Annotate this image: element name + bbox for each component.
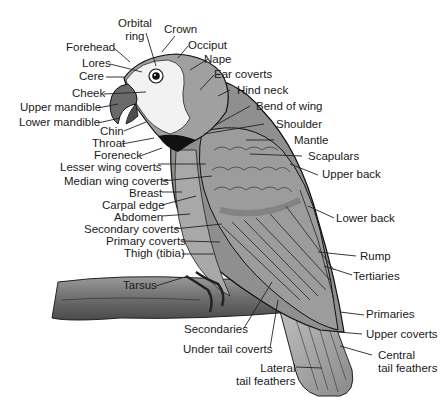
label-secondaries: Secondaries [184,323,248,336]
label-bend-of-wing: Bend of wing [256,100,323,113]
label-cheek: Cheek [72,87,105,100]
label-lateral-tail-feathers: Lateral tail feathers [236,362,295,388]
label-crown: Crown [164,23,197,36]
label-rump: Rump [360,250,391,263]
label-primaries: Primaries [366,308,415,321]
label-lower-back: Lower back [336,212,395,225]
label-orbital-ring: Orbital ring [118,17,152,43]
label-hind-neck: Hind neck [237,84,288,97]
label-ear-coverts: Ear coverts [214,68,272,81]
label-nape: Nape [204,53,232,66]
label-scapulars: Scapulars [308,150,359,163]
label-occiput: Occiput [188,39,227,52]
label-under-tail-coverts: Under tail coverts [183,343,272,356]
label-lores: Lores [82,57,111,70]
label-upper-coverts: Upper coverts [366,328,438,341]
label-shoulder: Shoulder [276,118,322,131]
label-central-tail-feathers: Central tail feathers [378,349,437,375]
label-cere: Cere [79,70,104,83]
parrot-anatomy-diagram: Orbital ring Crown Occiput Forehead Nape… [0,0,448,404]
label-tertiaries: Tertiaries [353,270,400,283]
label-lower-mandible: Lower mandible [19,116,100,129]
label-upper-mandible: Upper mandible [20,101,101,114]
label-upper-back: Upper back [322,168,381,181]
label-thigh: Thigh (tibia) [124,247,185,260]
label-forehead: Forehead [66,41,115,54]
label-tarsus: Tarsus [123,279,157,292]
label-mantle: Mantle [294,134,329,147]
label-lesser-wing-coverts: Lesser wing coverts [60,161,162,174]
